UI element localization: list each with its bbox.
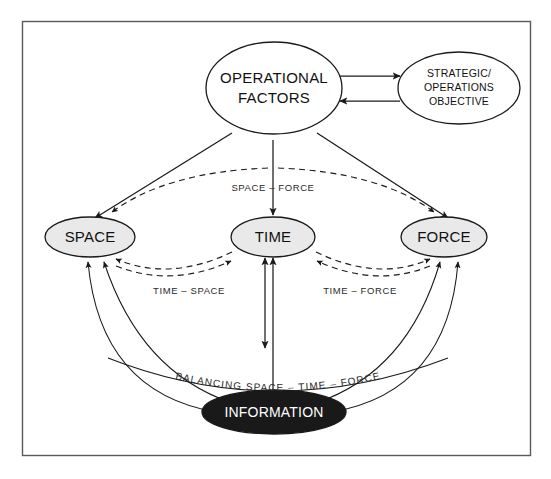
node-force[interactable]: FORCE [401,217,487,257]
operational-factors-label-line1: OPERATIONAL [220,69,328,86]
information-label: INFORMATION [224,404,323,420]
edge-label-balancing: BALANCING SPACE – TIME – FORCE [174,370,381,393]
operational-factors-label-line2: FACTORS [238,89,310,106]
time-label: TIME [255,228,292,245]
diagram-canvas: STRATEGIC/OPERATIONS OBJECTIVE --> [0,0,551,479]
edge-operational-to-space [95,133,232,218]
strategic-objective-label-line3: OBJECTIVE [429,95,489,107]
node-space[interactable]: SPACE [45,217,135,257]
space-label: SPACE [65,228,116,245]
edge-space-time-dashed [116,261,231,276]
edge-force-time-dashed [317,261,430,276]
node-operational-factors[interactable]: OPERATIONAL FACTORS [206,42,342,134]
edge-label-time-force: TIME – FORCE [323,285,397,296]
strategic-objective-label-line1: STRATEGIC/ [427,67,491,79]
edge-time-force-dashed [316,252,430,269]
edge-label-balancing-path: BALANCING SPACE – TIME – FORCE [174,370,381,393]
operational-factors-diagram: STRATEGIC/OPERATIONS OBJECTIVE --> [0,0,551,479]
edge-time-space-dashed [116,252,232,269]
node-strategic-operations-objective[interactable]: STRATEGIC/ OPERATIONS OBJECTIVE [398,52,520,124]
edge-label-time-space: TIME – SPACE [153,285,225,296]
edge-operational-to-force [317,133,448,218]
node-time[interactable]: TIME [231,217,315,257]
edge-label-space-force: SPACE – FORCE [231,182,314,193]
node-information[interactable]: INFORMATION [202,390,346,434]
strategic-objective-label-line2: OPERATIONS [424,81,494,93]
force-label: FORCE [417,228,471,245]
